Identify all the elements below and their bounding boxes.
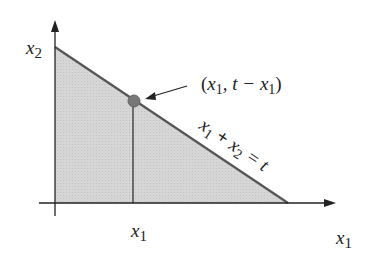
y-axis-label: x2 xyxy=(25,37,42,61)
budget-line-diagram: x2 x1 x1 (x1, t − x1) x1 + x2 = t xyxy=(0,0,370,258)
point-annotation: (x1, t − x1) xyxy=(201,73,282,97)
tangent-point xyxy=(128,95,140,107)
annotation-arrow xyxy=(145,86,187,100)
x-axis-arrow-icon xyxy=(324,199,336,207)
x1-tick-label: x1 xyxy=(130,220,147,244)
y-axis-arrow-icon xyxy=(51,20,59,32)
x-axis-label: x1 xyxy=(335,227,352,251)
annotation-arrow-icon xyxy=(145,92,156,100)
